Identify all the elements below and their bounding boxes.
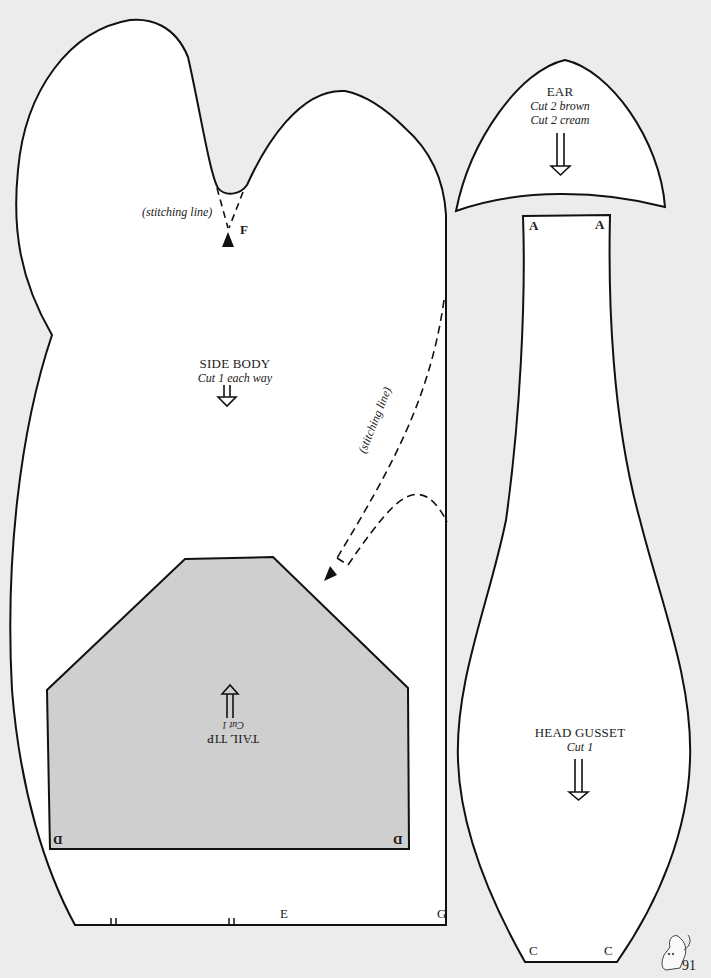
mark-g: G — [437, 906, 446, 922]
pattern-drawing — [0, 0, 711, 978]
ear-title: EAR — [515, 85, 605, 100]
side-body-instruction: Cut 1 each way — [190, 372, 280, 386]
ear-instruction-brown: Cut 2 brown — [515, 100, 605, 114]
mark-c-left: C — [529, 943, 538, 959]
page-number: 91 — [682, 958, 696, 974]
mark-d-right: D — [393, 832, 402, 848]
mark-a-right: A — [595, 217, 604, 233]
ear-outline — [456, 60, 665, 211]
ear-label: EAR Cut 2 brown Cut 2 cream — [515, 85, 605, 128]
head-gusset-label: HEAD GUSSET Cut 1 — [525, 726, 635, 755]
mark-f: F — [240, 222, 248, 238]
tail-tip-instruction: Cut 1 — [193, 720, 273, 732]
head-gusset-title: HEAD GUSSET — [525, 726, 635, 741]
tail-tip-label: TAIL TIP Cut 1 — [193, 720, 273, 746]
mark-a-left: A — [529, 218, 538, 234]
tail-tip-title: TAIL TIP — [193, 732, 273, 747]
dart-stitching-label: (stitching line) — [142, 205, 212, 220]
mark-d-left: D — [53, 832, 62, 848]
side-body-grain-arrow — [213, 385, 243, 425]
pattern-page: SIDE BODY Cut 1 each way (stitching line… — [0, 0, 711, 978]
mark-e: E — [280, 906, 288, 922]
side-body-title: SIDE BODY — [190, 357, 280, 372]
head-gusset-instruction: Cut 1 — [525, 741, 635, 755]
side-body-label: SIDE BODY Cut 1 each way — [190, 357, 280, 386]
head-gusset-outline — [458, 215, 690, 962]
ear-instruction-cream: Cut 2 cream — [515, 114, 605, 128]
mark-c-right: C — [604, 943, 613, 959]
